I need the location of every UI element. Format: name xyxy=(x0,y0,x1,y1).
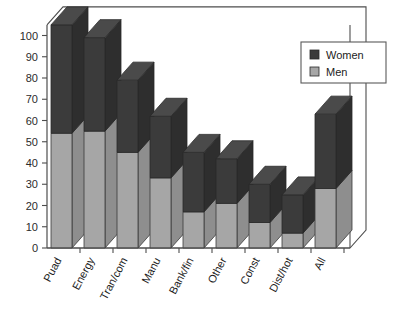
x-axis-category-label: Tran/com xyxy=(97,255,129,301)
legend-swatch xyxy=(310,67,319,76)
x-axis: PuadEnergyTran/comManuBank/finOtherConst… xyxy=(41,248,350,302)
x-axis-category-label: Other xyxy=(205,255,229,285)
bar-segment-women-front xyxy=(249,184,270,222)
y-axis-tick-label: 70 xyxy=(26,93,38,105)
x-axis-category-label: Manu xyxy=(139,255,163,285)
x-axis-category-label: All xyxy=(311,255,327,271)
x-axis-category-label: Puad xyxy=(41,255,64,283)
y-axis-tick-label: 40 xyxy=(26,157,38,169)
bar-group xyxy=(282,177,319,248)
y-axis-tick-label: 30 xyxy=(26,178,38,190)
bar-segment-men-front xyxy=(315,189,336,249)
x-axis-category-label: Const xyxy=(238,255,262,286)
y-axis-tick-label: 50 xyxy=(26,136,38,148)
x-axis-category-label: Bank/fin xyxy=(166,255,195,296)
bar-group xyxy=(84,20,121,248)
bar-segment-women-front xyxy=(51,25,72,133)
bar-segment-men-front xyxy=(117,152,138,248)
y-axis-tick-label: 90 xyxy=(26,51,38,63)
y-axis-tick-label: 10 xyxy=(26,221,38,233)
chart-legend: WomenMen xyxy=(301,42,386,83)
bar-segment-women-front xyxy=(282,195,303,233)
bar-segment-women-front xyxy=(315,114,336,188)
bar-segment-women-front xyxy=(84,38,105,132)
bar-segment-women-front xyxy=(150,116,171,178)
bar-group xyxy=(183,134,220,248)
bar-segment-men-front xyxy=(216,203,237,248)
bar-segment-men-front xyxy=(249,223,270,249)
bar-chart-figure: 0102030405060708090100 PuadEnergyTran/co… xyxy=(0,0,417,325)
bar-segment-men-front xyxy=(51,133,72,248)
y-axis-tick-label: 20 xyxy=(26,200,38,212)
legend-swatch xyxy=(310,50,319,59)
y-axis-tick-label: 0 xyxy=(32,242,38,254)
bar-group xyxy=(249,166,286,248)
bar-segment-women-front xyxy=(183,152,204,212)
bar-segment-men-front xyxy=(150,178,171,248)
bar-group xyxy=(216,141,253,248)
chart-canvas: 0102030405060708090100 PuadEnergyTran/co… xyxy=(0,0,417,325)
bar-group xyxy=(150,98,187,248)
bar-group xyxy=(315,96,352,248)
bar-segment-women-front xyxy=(216,159,237,204)
bar-segment-women-front xyxy=(117,80,138,152)
bar-segment-men-front xyxy=(282,233,303,248)
bar-segment-men-front xyxy=(84,131,105,248)
x-axis-category-label: Energy xyxy=(70,255,97,292)
y-axis-tick-label: 100 xyxy=(20,30,38,42)
x-axis-category-label: Dist/hot xyxy=(267,255,295,294)
legend-label: Men xyxy=(326,66,347,78)
bar-group xyxy=(51,7,88,248)
legend-label: Women xyxy=(326,49,364,61)
bar-segment-men-front xyxy=(183,212,204,248)
y-axis-tick-label: 60 xyxy=(26,115,38,127)
y-axis: 0102030405060708090100 xyxy=(20,25,47,254)
bar-group xyxy=(117,62,154,248)
y-axis-tick-label: 80 xyxy=(26,72,38,84)
